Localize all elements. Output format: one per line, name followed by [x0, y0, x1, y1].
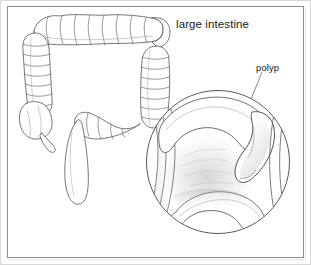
illustration-figure: large intestine polyp: [0, 0, 311, 265]
appendix: [40, 133, 55, 152]
magnifier-inset: [143, 91, 302, 241]
page-title: large intestine: [176, 18, 249, 30]
cecum: [19, 102, 52, 140]
polyp-callout-label: polyp: [256, 62, 279, 73]
anatomy-artwork: [0, 0, 311, 265]
transverse-colon: [34, 15, 163, 45]
